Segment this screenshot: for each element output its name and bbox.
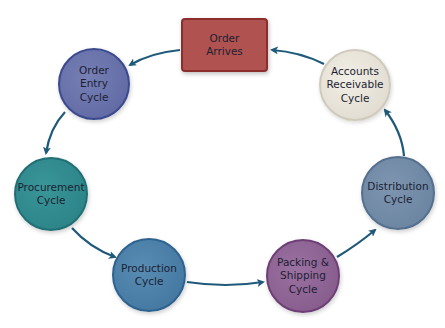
order-entry-cycle-label: Order Entry Cycle: [79, 64, 109, 105]
arrow-accounts-to-order-arrives: [272, 50, 324, 64]
arrow-procurement-to-production: [72, 228, 115, 257]
production-cycle-node: Production Cycle: [112, 238, 186, 312]
arrow-distribution-to-accounts: [385, 110, 404, 156]
procurement-cycle-label: Procurement Cycle: [17, 181, 84, 208]
accounts-receivable-cycle-label: Accounts Receivable Cycle: [326, 65, 383, 106]
order-arrives-box: Order Arrives: [181, 18, 268, 72]
arrow-production-to-packing: [187, 282, 263, 285]
distribution-cycle-node: Distribution Cycle: [361, 156, 435, 230]
order-entry-cycle-node: Order Entry Cycle: [58, 48, 130, 120]
arrow-packing-to-distribution: [337, 230, 375, 257]
arrow-order-arrives-to-order-entry: [130, 50, 180, 65]
accounts-receivable-cycle-node: Accounts Receivable Cycle: [319, 49, 391, 121]
packing-shipping-cycle-node: Packing & Shipping Cycle: [266, 239, 340, 313]
procurement-cycle-node: Procurement Cycle: [14, 157, 88, 231]
distribution-cycle-label: Distribution Cycle: [367, 180, 428, 207]
order-arrives-label: Order Arrives: [206, 32, 243, 59]
arrow-order-entry-to-procurement: [46, 112, 65, 153]
production-cycle-label: Production Cycle: [121, 262, 177, 289]
packing-shipping-cycle-label: Packing & Shipping Cycle: [277, 256, 329, 297]
